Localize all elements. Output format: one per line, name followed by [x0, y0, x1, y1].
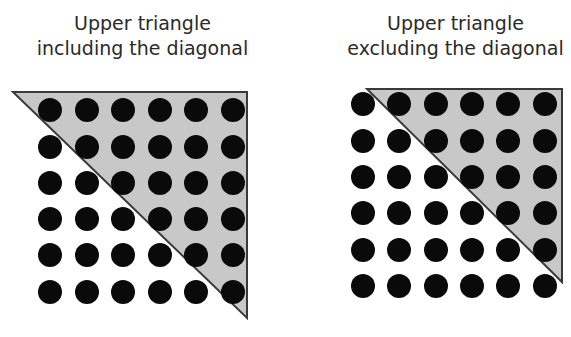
matrix-element-dot: [387, 238, 411, 262]
matrix-element-dot: [533, 201, 557, 225]
matrix-element-dot: [184, 171, 208, 195]
matrix-element-dot: [111, 207, 135, 231]
matrix-element-dot: [38, 207, 62, 231]
matrix-element-dot: [424, 274, 448, 298]
matrix-element-dot: [387, 274, 411, 298]
matrix-element-dot: [424, 201, 448, 225]
matrix-element-dot: [221, 280, 245, 304]
matrix-element-dot: [424, 165, 448, 189]
matrix-element-dot: [424, 238, 448, 262]
matrix-element-dot: [460, 165, 484, 189]
matrix-element-dot: [184, 243, 208, 267]
matrix-diagrams: [0, 0, 571, 337]
matrix-element-dot: [424, 92, 448, 116]
matrix-element-dot: [148, 135, 172, 159]
matrix-element-dot: [351, 165, 375, 189]
matrix-element-dot: [460, 129, 484, 153]
matrix-element-dot: [460, 201, 484, 225]
matrix-element-dot: [221, 171, 245, 195]
matrix-element-dot: [111, 243, 135, 267]
matrix-element-dot: [184, 98, 208, 122]
matrix-element-dot: [148, 243, 172, 267]
matrix-element-dot: [387, 92, 411, 116]
matrix-element-dot: [496, 92, 520, 116]
matrix-element-dot: [533, 238, 557, 262]
matrix-element-dot: [496, 201, 520, 225]
matrix-element-dot: [424, 129, 448, 153]
matrix-element-dot: [221, 98, 245, 122]
matrix-element-dot: [533, 165, 557, 189]
matrix-element-dot: [75, 243, 99, 267]
matrix-element-dot: [533, 274, 557, 298]
matrix-element-dot: [38, 171, 62, 195]
matrix-element-dot: [496, 165, 520, 189]
matrix-element-dot: [111, 135, 135, 159]
matrix-excluding-diagonal: [351, 89, 562, 298]
matrix-element-dot: [111, 280, 135, 304]
matrix-element-dot: [148, 280, 172, 304]
matrix-element-dot: [351, 92, 375, 116]
matrix-element-dot: [75, 135, 99, 159]
matrix-element-dot: [496, 274, 520, 298]
matrix-element-dot: [75, 98, 99, 122]
matrix-element-dot: [184, 280, 208, 304]
matrix-element-dot: [148, 171, 172, 195]
matrix-element-dot: [38, 280, 62, 304]
matrix-element-dot: [38, 243, 62, 267]
matrix-element-dot: [184, 207, 208, 231]
matrix-element-dot: [351, 129, 375, 153]
matrix-element-dot: [38, 98, 62, 122]
matrix-element-dot: [351, 274, 375, 298]
matrix-element-dot: [38, 135, 62, 159]
matrix-element-dot: [221, 135, 245, 159]
matrix-element-dot: [111, 98, 135, 122]
matrix-element-dot: [75, 207, 99, 231]
matrix-element-dot: [496, 238, 520, 262]
matrix-element-dot: [75, 280, 99, 304]
matrix-including-diagonal: [13, 92, 247, 318]
matrix-element-dot: [351, 238, 375, 262]
matrix-element-dot: [75, 171, 99, 195]
matrix-element-dot: [460, 274, 484, 298]
matrix-element-dot: [387, 201, 411, 225]
matrix-element-dot: [111, 171, 135, 195]
matrix-element-dot: [460, 92, 484, 116]
matrix-element-dot: [533, 92, 557, 116]
matrix-element-dot: [221, 243, 245, 267]
matrix-element-dot: [351, 201, 375, 225]
matrix-element-dot: [460, 238, 484, 262]
matrix-element-dot: [184, 135, 208, 159]
matrix-element-dot: [533, 129, 557, 153]
matrix-element-dot: [387, 165, 411, 189]
matrix-element-dot: [148, 207, 172, 231]
matrix-element-dot: [221, 207, 245, 231]
matrix-element-dot: [387, 129, 411, 153]
matrix-element-dot: [148, 98, 172, 122]
matrix-element-dot: [496, 129, 520, 153]
